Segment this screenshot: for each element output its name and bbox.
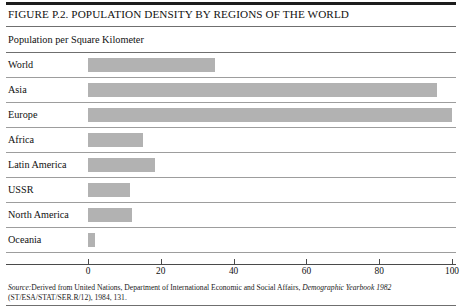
source-prefix: Source: [8,283,31,292]
x-axis-tick [306,259,307,264]
bar-row: Oceania [0,228,462,253]
bar-row: Asia [0,78,462,103]
bar-row-label: World [8,59,33,70]
bar-row-label: Asia [8,84,27,95]
bar [88,208,132,222]
bar-row: Africa [0,128,462,153]
source-text-a: Derived from United Nations, Department … [31,283,302,292]
bar-row-label: Africa [8,134,34,145]
bar-rows: WorldAsiaEuropeAfricaLatin AmericaUSSRNo… [0,53,462,253]
figure-subtitle: Population per Square Kilometer [8,34,144,45]
bottom-rule [6,305,456,306]
bar-row-label: Latin America [8,159,67,170]
source-title-italic: Demographic Yearbook 1982 [302,283,391,292]
bar [88,233,95,247]
bar-row: World [0,53,462,78]
bar-row: Latin America [0,153,462,178]
bar-row-label: Oceania [8,234,41,245]
x-axis-tick [452,259,453,264]
bar-row-label: USSR [8,184,33,195]
x-axis-tick-label: 80 [375,266,384,276]
bar [88,158,155,172]
bar-row-label: North America [8,209,69,220]
source-text-b: (ST/ESA/STAT/SER.R/12), 1984, 131. [8,293,127,302]
top-rule [6,2,456,5]
bar-row-label: Europe [8,109,37,120]
x-axis-tick-label: 0 [86,266,91,276]
bar [88,83,437,97]
bar-row: North America [0,203,462,228]
figure-title: FIGURE P.2. POPULATION DENSITY BY REGION… [8,8,349,20]
x-axis-tick [234,259,235,264]
title-underrule [6,26,456,27]
x-axis-line [6,264,456,265]
bar [88,133,143,147]
bar [88,183,130,197]
bar [88,108,452,122]
x-axis-tick-label: 100 [445,266,459,276]
x-axis-tick-label: 40 [229,266,238,276]
x-axis-tick [379,259,380,264]
x-axis-tick-label: 20 [156,266,165,276]
row-separator [6,252,456,253]
x-axis-tick [161,259,162,264]
bar [88,58,215,72]
bar-row: USSR [0,178,462,203]
x-axis-tick-label: 60 [302,266,311,276]
x-axis-tick [88,259,89,264]
bar-row: Europe [0,103,462,128]
figure-container: FIGURE P.2. POPULATION DENSITY BY REGION… [0,0,462,308]
source-note: Source:Derived from United Nations, Depa… [8,283,454,302]
